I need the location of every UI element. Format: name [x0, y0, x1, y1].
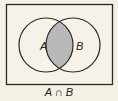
set-a-label: A	[39, 40, 47, 52]
set-b-label: B	[76, 40, 83, 52]
diagram-caption: A ∩ B	[0, 86, 118, 98]
